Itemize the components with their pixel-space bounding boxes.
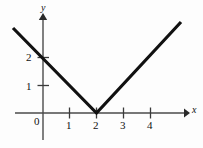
origin-label: 0 — [34, 116, 40, 127]
x-tick-label-4: 4 — [147, 120, 153, 131]
x-tick-label-1: 1 — [66, 120, 72, 131]
graph-figure: 0 1 2 3 4 1 2 x y — [0, 0, 203, 148]
x-tick-label-2: 2 — [93, 120, 99, 131]
x-tick-label-3: 3 — [120, 120, 126, 131]
x-axis-arrowhead — [184, 109, 190, 118]
y-tick-label-1: 1 — [26, 81, 32, 92]
y-axis-label: y — [41, 3, 45, 13]
y-axis — [39, 13, 47, 140]
y-tick-label-2: 2 — [26, 52, 32, 63]
y-axis-arrowhead — [39, 13, 47, 20]
x-axis — [15, 109, 190, 118]
x-axis-label: x — [192, 105, 196, 115]
absolute-value-curve — [13, 22, 181, 113]
coordinate-plot — [0, 0, 203, 148]
